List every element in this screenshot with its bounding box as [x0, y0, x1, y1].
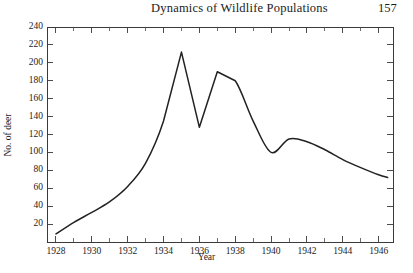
y-tick-label: 80 — [18, 164, 43, 174]
y-tick-label: 60 — [18, 182, 43, 192]
data-series-line — [56, 52, 388, 234]
y-tick-label: 20 — [18, 218, 43, 228]
y-axis-title: No. of deer — [3, 113, 13, 157]
plot-frame — [47, 27, 393, 242]
chart-figure: No. of deer 1928193019321934193619381940… — [0, 20, 413, 273]
x-axis-title: Year — [0, 252, 413, 262]
y-axis-ticks-right — [387, 27, 393, 224]
y-tick-label: 240 — [18, 21, 43, 31]
y-tick-label: 180 — [18, 75, 43, 85]
y-tick-label: 220 — [18, 39, 43, 49]
y-tick-label: 140 — [18, 111, 43, 121]
running-head: Dynamics of Wildlife Populations 157 — [0, 1, 413, 21]
plot-area: No. of deer — [0, 20, 413, 273]
x-axis-ticks-top — [56, 27, 379, 33]
y-tick-label: 160 — [18, 93, 43, 103]
y-tick-label: 100 — [18, 146, 43, 156]
page-number: 157 — [378, 1, 397, 16]
page-title: Dynamics of Wildlife Populations — [151, 1, 328, 16]
y-tick-label: 200 — [18, 57, 43, 67]
x-axis-ticks — [56, 236, 379, 242]
y-tick-label: 120 — [18, 129, 43, 139]
y-tick-label: 40 — [18, 200, 43, 210]
y-axis-ticks — [47, 27, 53, 224]
